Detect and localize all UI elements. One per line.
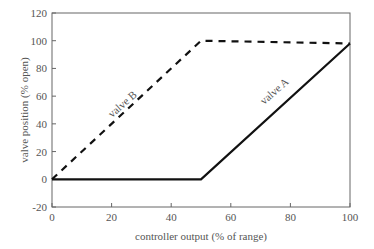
y-axis-label: valve position (% open) xyxy=(18,57,31,163)
y-tick-label: 20 xyxy=(36,146,48,158)
x-tick-label: 20 xyxy=(106,211,118,223)
x-tick-label: 40 xyxy=(166,211,178,223)
series-valve-a xyxy=(52,43,350,179)
series-valve-b xyxy=(52,41,350,180)
y-tick-label: 60 xyxy=(36,90,48,102)
y-tick-label: 0 xyxy=(42,173,48,185)
y-tick-label: 80 xyxy=(36,62,48,74)
x-axis-label: controller output (% of range) xyxy=(135,230,267,243)
x-tick-label: 80 xyxy=(285,211,297,223)
chart: -20020406080100120 020406080100 valve B … xyxy=(0,0,374,249)
y-tick-label: -20 xyxy=(32,201,47,213)
y-tick-label: 40 xyxy=(36,118,48,130)
x-axis: 020406080100 xyxy=(49,203,359,223)
x-tick-label: 100 xyxy=(342,211,359,223)
x-tick-label: 0 xyxy=(49,211,55,223)
y-tick-label: 100 xyxy=(31,35,48,47)
x-tick-label: 60 xyxy=(225,211,237,223)
y-tick-label: 120 xyxy=(31,7,48,19)
